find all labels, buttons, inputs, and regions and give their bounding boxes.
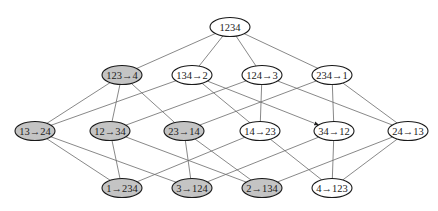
node-1234: 1234 [210,18,250,37]
node-label: 24→13 [392,126,424,137]
node-label: 234→1 [316,70,348,81]
node-3-124: 3→124 [172,179,212,198]
node-label: 124→3 [246,70,278,81]
nodes-layer: 1234123→4134→2124→3234→113→2412→3423→141… [15,18,428,198]
node-label: 13→24 [19,126,51,137]
edge-1234-to-123-4 [137,33,216,68]
edge-234-1-to-24-13 [343,83,397,123]
edges-layer [47,33,398,182]
node-4-123: 4→123 [312,179,352,198]
node-12-34: 12→34 [90,122,130,141]
edge-14-23-to-1-234 [137,137,245,182]
node-label: 1→234 [106,183,138,194]
edge-134-2-to-13-24 [51,81,176,126]
edge-34-12-to-3-124 [207,137,318,182]
node-label: 4→123 [316,183,348,194]
edge-34-12-to-4-123 [332,140,333,178]
node-124-3: 124→3 [242,66,282,85]
lattice-diagram: 1234123→4134→2124→3234→113→2412→3423→141… [0,0,438,211]
edge-234-1-to-34-12 [332,84,333,121]
node-1-234: 1→234 [102,179,142,198]
node-label: 14→23 [244,126,276,137]
edge-124-3-to-12-34 [126,81,246,125]
edge-134-2-to-34-12 [207,81,318,125]
node-123-4: 123→4 [102,66,142,85]
edge-24-13-to-4-123 [343,139,398,180]
node-34-12: 34→12 [314,122,354,141]
edge-123-4-to-13-24 [47,83,110,124]
node-label: 3→124 [176,183,208,194]
edge-1234-to-124-3 [236,36,256,66]
edge-24-13-to-2-134 [277,137,392,182]
node-label: 2→134 [246,183,278,194]
node-label: 34→12 [318,126,350,137]
edge-124-3-to-14-23 [260,84,261,121]
node-234-1: 234→1 [312,66,352,85]
node-2-134: 2→134 [242,179,282,198]
node-23-14: 23→14 [164,122,204,141]
edge-1234-to-234-1 [244,34,318,69]
edge-13-24-to-1-234 [47,139,111,181]
node-label: 134→2 [176,70,208,81]
edge-134-2-to-14-23 [202,83,250,123]
node-134-2: 134→2 [172,66,212,85]
node-label: 12→34 [94,126,126,137]
edge-13-24-to-3-124 [51,137,176,182]
edge-124-3-to-24-13 [278,81,393,125]
edge-14-23-to-4-123 [270,139,321,180]
node-14-23: 14→23 [240,122,280,141]
edge-234-1-to-23-14 [200,81,317,125]
edge-23-14-to-2-134 [195,139,251,180]
node-label: 123→4 [106,70,138,81]
node-label: 1234 [220,22,242,33]
node-24-13: 24→13 [388,122,428,141]
edge-1234-to-134-2 [199,36,223,66]
node-label: 23→14 [168,126,200,137]
node-13-24: 13→24 [15,122,55,141]
